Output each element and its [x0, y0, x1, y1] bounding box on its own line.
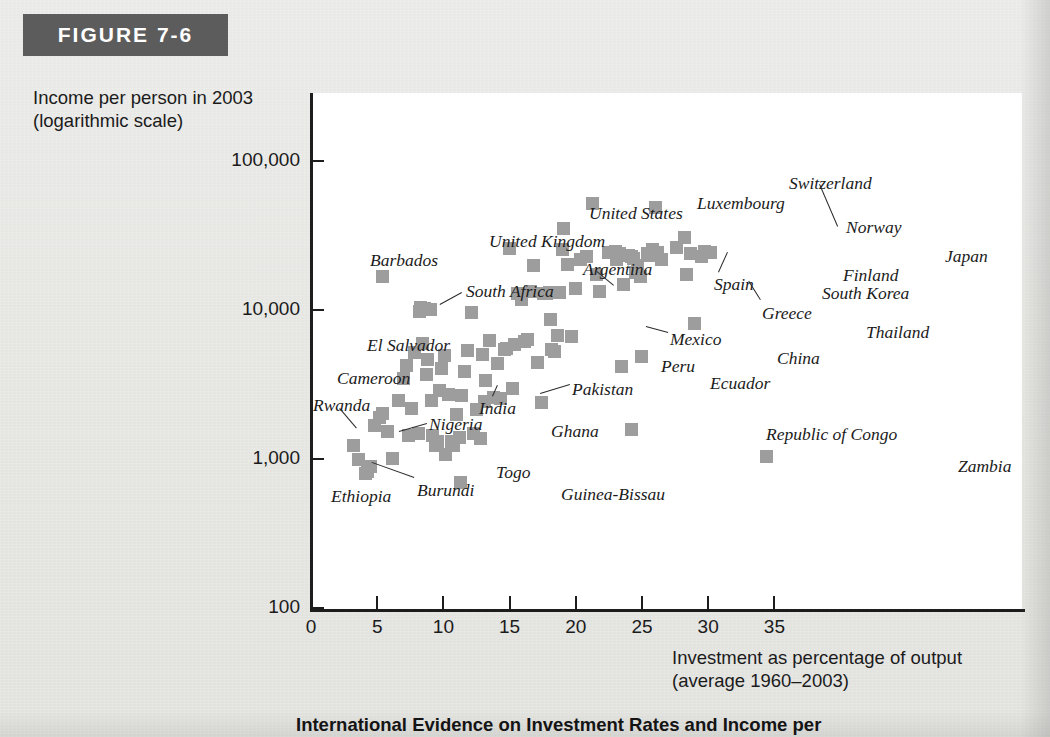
country-label-switzerland: Switzerland: [789, 173, 872, 194]
country-label-barbados: Barbados: [370, 250, 438, 271]
y-axis-title-line2: (logarithmic scale): [33, 110, 183, 131]
data-point: [431, 435, 444, 448]
x-axis-tick: [376, 596, 378, 609]
data-point-ecuador: [615, 360, 628, 373]
data-point-norway: [678, 231, 691, 244]
y-axis-tick-label: 10,000: [150, 298, 300, 320]
data-point: [491, 357, 504, 370]
data-point-mexico: [544, 313, 557, 326]
y-axis-title: Income per person in 2003(logarithmic sc…: [33, 86, 253, 132]
y-axis-tick-label: 100,000: [150, 149, 300, 171]
x-axis-tick-label: 35: [744, 616, 804, 638]
data-point: [569, 282, 582, 295]
country-label-thailand: Thailand: [866, 322, 929, 343]
x-axis-tick-label: 15: [480, 616, 540, 638]
y-axis-tick: [311, 309, 324, 311]
x-axis-tick: [641, 596, 643, 609]
figure-number-label: FIGURE 7-6: [58, 23, 194, 47]
data-point: [483, 334, 496, 347]
x-axis-tick: [773, 596, 775, 609]
country-label-greece: Greece: [762, 303, 812, 324]
data-point: [405, 402, 418, 415]
country-label-nigeria: Nigeria: [429, 414, 482, 435]
country-label-spain: Spain: [714, 274, 754, 295]
y-axis-tick: [311, 458, 324, 460]
x-axis-tick-label: 5: [347, 616, 407, 638]
country-label-peru: Peru: [661, 356, 695, 377]
data-point: [553, 286, 566, 299]
country-label-argentina: Argentina: [583, 259, 652, 280]
country-label-republic-of-congo: Republic of Congo: [766, 424, 897, 445]
data-point-finland: [684, 247, 697, 260]
country-label-ecuador: Ecuador: [710, 373, 770, 394]
x-axis-tick-label: 10: [413, 616, 473, 638]
x-axis-tick-label: 20: [546, 616, 606, 638]
data-point-china: [635, 350, 648, 363]
country-label-china: China: [777, 348, 820, 369]
country-label-guinea-bissau: Guinea-Bissau: [561, 484, 665, 505]
data-point: [479, 374, 492, 387]
data-point-south-africa: [418, 302, 431, 315]
data-point: [420, 368, 433, 381]
data-point: [561, 258, 574, 271]
country-label-united-kingdom: United Kingdom: [489, 231, 605, 252]
data-point: [527, 259, 540, 272]
data-point: [458, 365, 471, 378]
figure-number-bar: FIGURE 7-6: [23, 14, 228, 56]
country-label-india: India: [479, 398, 516, 419]
country-label-norway: Norway: [846, 217, 901, 238]
country-label-mexico: Mexico: [670, 329, 722, 350]
x-axis-tick: [310, 596, 312, 609]
x-axis-tick: [509, 596, 511, 609]
data-point-barbados: [376, 270, 389, 283]
x-axis-tick-label: 0: [281, 616, 341, 638]
data-point: [386, 452, 399, 465]
data-point: [381, 425, 394, 438]
data-point: [655, 253, 668, 266]
x-axis-tick: [575, 596, 577, 609]
data-point-japan: [698, 245, 711, 258]
x-axis-title: Investment as percentage of output(avera…: [672, 646, 962, 692]
x-axis-title-line1: Investment as percentage of output: [672, 647, 962, 668]
data-point-peru: [548, 345, 561, 358]
data-point-thailand: [688, 317, 701, 330]
data-point-india: [442, 388, 455, 401]
country-label-togo: Togo: [496, 462, 530, 483]
x-axis-tick: [442, 596, 444, 609]
data-point: [565, 330, 578, 343]
data-point-rwanda: [347, 439, 360, 452]
country-label-ghana: Ghana: [551, 421, 599, 442]
country-label-cameroon: Cameroon: [337, 368, 410, 389]
country-label-zambia: Zambia: [958, 456, 1011, 477]
data-point: [476, 348, 489, 361]
country-label-south-korea: South Korea: [822, 283, 909, 304]
figure-caption: International Evidence on Investment Rat…: [296, 714, 996, 736]
data-point-burundi: [361, 465, 374, 478]
y-axis-tick: [311, 160, 324, 162]
country-label-el-salvador: El Salvador: [367, 335, 450, 356]
x-axis-tick-label: 30: [678, 616, 738, 638]
country-label-ethiopia: Ethiopia: [331, 486, 391, 507]
data-point: [521, 333, 534, 346]
y-axis-tick-label: 100: [150, 596, 300, 618]
data-point-togo: [439, 448, 452, 461]
country-label-south-africa: South Africa: [466, 281, 554, 302]
data-point: [506, 382, 519, 395]
y-axis-tick: [311, 607, 324, 609]
data-point: [455, 389, 468, 402]
country-label-pakistan: Pakistan: [572, 379, 633, 400]
data-point: [465, 306, 478, 319]
data-point: [461, 344, 474, 357]
x-axis-tick: [707, 596, 709, 609]
x-axis-tick-label: 25: [612, 616, 672, 638]
country-label-united-states: United States: [589, 203, 683, 224]
x-axis-line: [310, 609, 1025, 612]
y-axis-tick-label: 1,000: [150, 447, 300, 469]
data-point-republic-of-congo: [625, 423, 638, 436]
country-label-japan: Japan: [945, 246, 988, 267]
data-point-zambia: [760, 450, 773, 463]
data-point-nigeria: [402, 429, 415, 442]
data-point: [531, 356, 544, 369]
country-label-luxembourg: Luxembourg: [697, 193, 785, 214]
x-axis-title-line2: (average 1960–2003): [672, 670, 849, 691]
